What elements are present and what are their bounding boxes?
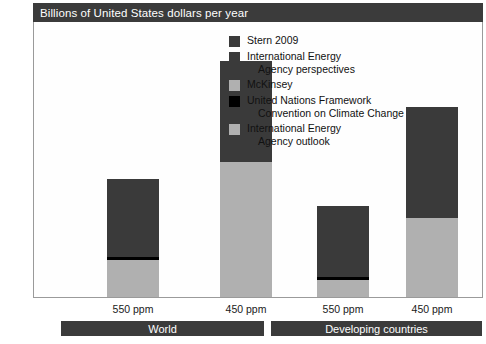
bar-segment <box>107 260 159 297</box>
bar-segment <box>317 206 369 277</box>
group-band: Developing countries <box>271 321 482 336</box>
bar-segment <box>406 218 458 297</box>
legend-item[interactable]: International EnergyAgency outlook <box>229 122 429 147</box>
legend-item-label: International EnergyAgency outlook <box>247 122 341 147</box>
legend-item[interactable]: McKinsey <box>229 78 429 91</box>
legend-item-label-continuation: Convention on Climate Change <box>247 107 404 120</box>
chart-legend: Stern 2009International EnergyAgency per… <box>229 34 429 150</box>
legend-item[interactable]: United Nations FrameworkConvention on Cl… <box>229 94 429 119</box>
legend-item-label: United Nations FrameworkConvention on Cl… <box>247 94 404 119</box>
legend-swatch-icon <box>229 80 240 91</box>
group-band: World <box>61 321 264 336</box>
bar-segment <box>220 162 272 297</box>
legend-item-label: International EnergyAgency perspectives <box>247 50 355 75</box>
group-band-label: Developing countries <box>325 323 428 335</box>
legend-swatch-icon <box>229 96 240 107</box>
x-axis-tick-label: 550 ppm <box>303 303 383 315</box>
x-axis-tick-label: 550 ppm <box>93 303 173 315</box>
legend-swatch-icon <box>229 124 240 135</box>
x-axis-tick-label: 450 ppm <box>206 303 286 315</box>
bar-segment <box>107 179 159 257</box>
legend-item[interactable]: International EnergyAgency perspectives <box>229 50 429 75</box>
chart-title-banner: Billions of United States dollars per ye… <box>33 3 483 22</box>
group-band-label: World <box>148 323 177 335</box>
bar-segment <box>317 280 369 297</box>
legend-item[interactable]: Stern 2009 <box>229 34 429 47</box>
x-axis-tick-label: 450 ppm <box>392 303 472 315</box>
legend-swatch-icon <box>229 52 240 63</box>
legend-item-label-continuation: Agency outlook <box>247 135 341 148</box>
bar-segment <box>107 257 159 260</box>
legend-item-label-continuation: Agency perspectives <box>247 63 355 76</box>
legend-swatch-icon <box>229 36 240 47</box>
bar-segment <box>317 277 369 280</box>
chart-title: Billions of United States dollars per ye… <box>33 7 248 19</box>
chart-container: Billions of United States dollars per ye… <box>0 0 486 344</box>
legend-item-label: Stern 2009 <box>247 34 298 47</box>
legend-item-label: McKinsey <box>247 78 293 91</box>
